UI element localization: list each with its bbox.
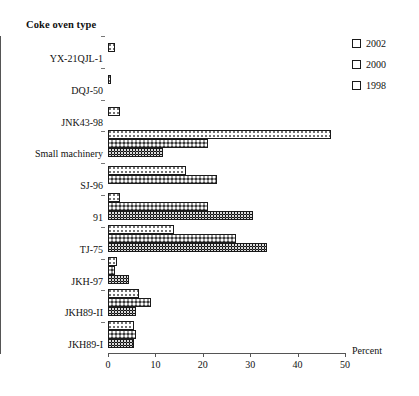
x-tick-label: 30 bbox=[245, 359, 255, 370]
x-axis-caption: Percent bbox=[352, 345, 382, 356]
bar-2000-small-machinery bbox=[108, 139, 208, 148]
x-tick-label: 20 bbox=[198, 359, 208, 370]
legend: 200220001998 bbox=[352, 35, 386, 98]
y-tick-label: JNK43-98 bbox=[3, 117, 103, 128]
bar-2000-jkh89-i bbox=[108, 330, 136, 339]
plot-area bbox=[108, 36, 345, 354]
bar-2000-91 bbox=[108, 202, 208, 211]
bar-1998-small-machinery bbox=[108, 148, 163, 157]
x-tick-label: 40 bbox=[293, 359, 303, 370]
y-axis-tick bbox=[101, 195, 105, 196]
legend-label: 1998 bbox=[366, 80, 386, 91]
bar-1998-jkh-97 bbox=[108, 275, 129, 284]
legend-item-1998[interactable]: 1998 bbox=[352, 77, 386, 93]
y-tick-label: 91 bbox=[3, 212, 103, 223]
bar-2000-tj-75 bbox=[108, 234, 236, 243]
bar-2002-tj-75 bbox=[108, 225, 174, 234]
legend-swatch-icon bbox=[352, 81, 361, 90]
x-tick-label: 10 bbox=[150, 359, 160, 370]
y-axis-tick bbox=[101, 322, 105, 323]
bar-2002-91 bbox=[108, 193, 120, 202]
y-tick-label: JKH-97 bbox=[3, 276, 103, 287]
y-tick-label: SJ-96 bbox=[3, 180, 103, 191]
bar-2000-jkh89-ii bbox=[108, 298, 151, 307]
y-axis-tick bbox=[101, 290, 105, 291]
y-axis-tick bbox=[101, 36, 105, 37]
x-axis-tick bbox=[155, 353, 156, 357]
y-axis-title: Coke oven type bbox=[26, 19, 96, 30]
y-tick-label: YX-21QJL-1 bbox=[3, 53, 103, 64]
y-tick-label: JKH89-II bbox=[3, 307, 103, 318]
x-tick-label: 50 bbox=[340, 359, 350, 370]
y-axis-tick bbox=[101, 227, 105, 228]
x-axis-tick bbox=[345, 353, 346, 357]
y-tick-label: TJ-75 bbox=[3, 244, 103, 255]
y-axis-tick bbox=[101, 163, 105, 164]
bar-1998-jkh89-i bbox=[108, 339, 134, 348]
bar-1998-tj-75 bbox=[108, 243, 267, 252]
bar-2002-jkh89-i bbox=[108, 321, 134, 330]
y-axis-tick bbox=[101, 68, 105, 69]
bar-2002-small-machinery bbox=[108, 130, 331, 139]
legend-swatch-icon bbox=[352, 39, 361, 48]
y-axis-tick bbox=[101, 100, 105, 101]
y-axis-tick-labels: YX-21QJL-1DQJ-50JNK43-98Small machineryS… bbox=[0, 36, 103, 354]
bar-1998-jkh89-ii bbox=[108, 307, 136, 316]
bar-2002-dqj-50 bbox=[108, 75, 111, 84]
y-tick-label: JKH89-I bbox=[3, 339, 103, 350]
bar-2000-jkh-97 bbox=[108, 266, 115, 275]
legend-label: 2000 bbox=[366, 59, 386, 70]
bar-2002-jkh89-ii bbox=[108, 289, 139, 298]
bar-2002-sj-96 bbox=[108, 166, 186, 175]
x-axis-tick bbox=[203, 353, 204, 357]
x-axis-tick bbox=[250, 353, 251, 357]
y-axis-tick bbox=[101, 131, 105, 132]
x-tick-label: 0 bbox=[106, 359, 111, 370]
bar-1998-91 bbox=[108, 211, 253, 220]
bar-2002-jnk43-98 bbox=[108, 107, 120, 116]
y-tick-label: Small machinery bbox=[3, 148, 103, 159]
x-axis-tick bbox=[298, 353, 299, 357]
x-axis-tick bbox=[108, 353, 109, 357]
bar-2002-yx-21qjl-1 bbox=[108, 43, 115, 52]
y-tick-label: DQJ-50 bbox=[3, 85, 103, 96]
legend-label: 2002 bbox=[366, 38, 386, 49]
legend-item-2000[interactable]: 2000 bbox=[352, 56, 386, 72]
legend-swatch-icon bbox=[352, 60, 361, 69]
bar-2002-jkh-97 bbox=[108, 257, 117, 266]
bar-chart: Coke oven type YX-21QJL-1DQJ-50JNK43-98S… bbox=[0, 0, 419, 396]
bar-2000-sj-96 bbox=[108, 175, 217, 184]
legend-item-2002[interactable]: 2002 bbox=[352, 35, 386, 51]
y-axis-tick bbox=[101, 259, 105, 260]
